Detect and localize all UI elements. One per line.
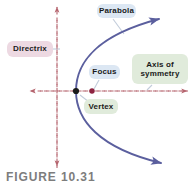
vertex-point <box>73 88 79 94</box>
figure-container: Parabola Directrix Axis of symmetry Focu… <box>0 0 195 190</box>
label-directrix: Directrix <box>7 41 53 57</box>
leader-line-focus <box>94 80 99 89</box>
parabola-diagram <box>0 0 195 190</box>
label-axis-of-symmetry: Axis of symmetry <box>132 54 188 84</box>
focus-point <box>89 88 94 93</box>
leader-line-axis <box>147 85 152 90</box>
label-parabola: Parabola <box>97 4 136 18</box>
label-vertex: Vertex <box>84 99 118 114</box>
figure-caption: FIGURE 10.31 <box>6 170 96 184</box>
label-focus: Focus <box>89 65 120 79</box>
